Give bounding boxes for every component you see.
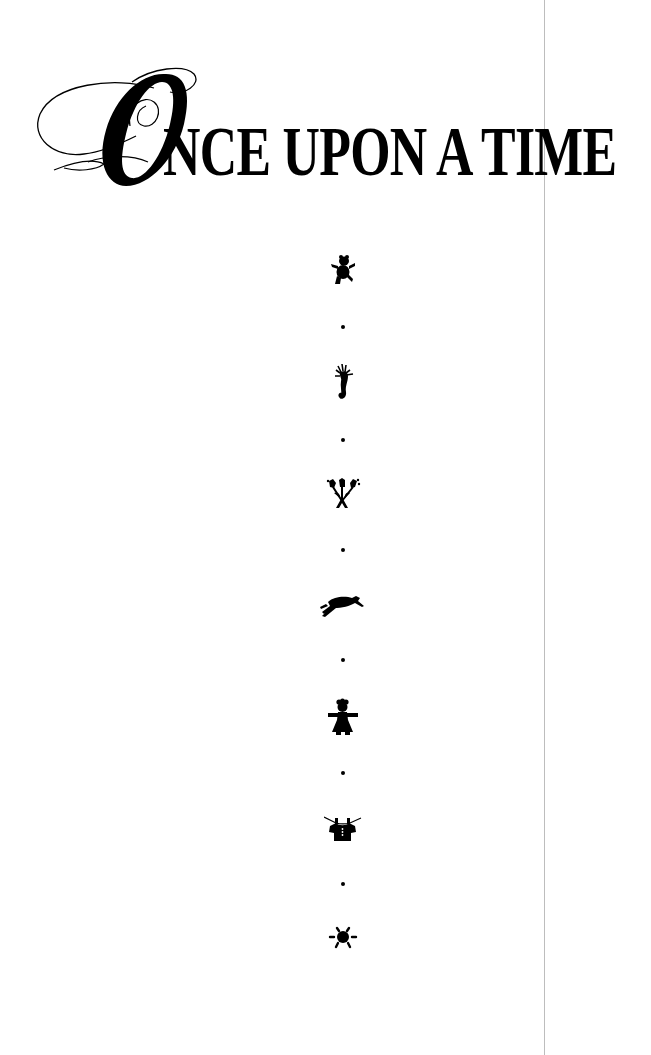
sun-icon	[328, 922, 358, 952]
separator-dot	[341, 325, 345, 329]
teddy-bear-icon	[330, 254, 356, 286]
title-text: NCE UPON A TIME	[163, 116, 616, 187]
girl-doll-icon	[327, 698, 359, 738]
shirt-on-clothesline-icon	[324, 815, 362, 845]
separator-dot	[341, 438, 345, 442]
seahorse-icon	[332, 364, 354, 402]
separator-dot	[341, 548, 345, 552]
tulip-bouquet-icon	[325, 477, 361, 509]
separator-dot	[341, 882, 345, 886]
separator-dot	[341, 771, 345, 775]
running-dog-icon	[320, 592, 366, 618]
separator-dot	[341, 658, 345, 662]
